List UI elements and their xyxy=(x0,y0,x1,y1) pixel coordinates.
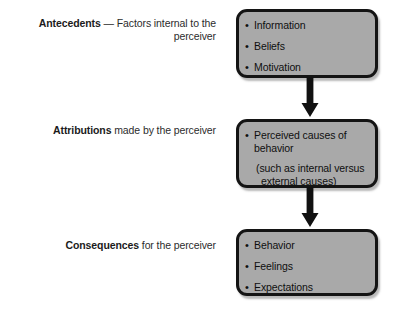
bullet-icon: • xyxy=(245,40,254,53)
list-item-label: Information xyxy=(254,19,369,32)
list-item: • Information xyxy=(245,19,369,32)
arrow-down-icon xyxy=(298,187,322,228)
attributions-note-line1: (such as internal versus xyxy=(256,162,364,174)
list-item-label: Motivation xyxy=(254,61,369,74)
bullet-icon: • xyxy=(245,239,254,252)
list-item: • Beliefs xyxy=(245,40,369,53)
attributions-note: (such as internal versus external causes… xyxy=(256,162,369,188)
consequences-box: • Behavior • Feelings • Expectations xyxy=(236,229,378,296)
list-item-label: Expectations xyxy=(254,281,369,294)
attributions-box: • Perceived causes of behavior (such as … xyxy=(236,119,378,188)
consequences-box-content: • Behavior • Feelings • Expectations xyxy=(239,232,375,294)
attributions-box-content: • Perceived causes of behavior (such as … xyxy=(239,122,375,188)
label-antecedents-lead: Antecedents xyxy=(39,17,101,29)
label-attributions-rest: made by the perceiver xyxy=(111,124,216,136)
list-item: • Motivation xyxy=(245,61,369,74)
bullet-icon: • xyxy=(245,260,254,273)
list-item-label: Feelings xyxy=(254,260,369,273)
list-item-label: Beliefs xyxy=(254,40,369,53)
label-consequences: Consequences for the perceiver xyxy=(14,239,216,252)
label-consequences-rest: for the perceiver xyxy=(139,239,216,251)
arrow-down-icon xyxy=(298,77,322,118)
label-consequences-lead: Consequences xyxy=(66,239,140,251)
list-item: • Expectations xyxy=(245,281,369,294)
label-attributions: Attributions made by the perceiver xyxy=(14,124,216,137)
bullet-icon: • xyxy=(245,281,254,294)
list-item: • Feelings xyxy=(245,260,369,273)
bullet-icon: • xyxy=(245,61,254,74)
label-antecedents-rest: — Factors internal to the perceiver xyxy=(101,17,216,42)
bullet-icon: • xyxy=(245,19,254,32)
label-attributions-lead: Attributions xyxy=(53,124,111,136)
bullet-icon: • xyxy=(245,129,254,142)
list-item-label: Behavior xyxy=(254,239,369,252)
list-item: • Behavior xyxy=(245,239,369,252)
list-item: • Perceived causes of behavior xyxy=(245,129,369,155)
list-item-label: Perceived causes of behavior xyxy=(254,129,369,155)
label-antecedents: Antecedents — Factors internal to the pe… xyxy=(14,17,216,43)
antecedents-box: • Information • Beliefs • Motivation xyxy=(236,9,378,78)
antecedents-box-content: • Information • Beliefs • Motivation xyxy=(239,12,375,74)
attribution-process-diagram: Antecedents — Factors internal to the pe… xyxy=(0,0,399,316)
